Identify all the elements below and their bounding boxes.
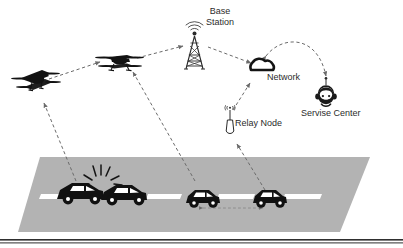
base-station-label: Base Station bbox=[206, 6, 234, 27]
link-drone-right-to-base-station bbox=[137, 46, 183, 58]
link-drone-left-to-drone-right bbox=[49, 62, 100, 79]
headset-operator-icon bbox=[315, 77, 337, 106]
cell-tower-icon bbox=[184, 22, 205, 69]
cloud-icon bbox=[250, 59, 273, 70]
service-center-label: Servise Center bbox=[301, 108, 361, 119]
quadcopter-drone-icon bbox=[95, 55, 144, 71]
network-label: Network bbox=[267, 72, 300, 83]
quadcopter-drone-icon bbox=[11, 70, 61, 91]
link-network-to-service-center bbox=[266, 42, 326, 76]
relay-node-label: Relay Node bbox=[235, 118, 282, 129]
diagram-graphics bbox=[0, 0, 403, 248]
link-base-station-to-network bbox=[208, 47, 251, 63]
link-relay-to-network bbox=[233, 83, 250, 110]
baseline-rule bbox=[0, 239, 403, 243]
diagram-canvas: Base Station Network Relay Node Servise … bbox=[0, 0, 403, 248]
